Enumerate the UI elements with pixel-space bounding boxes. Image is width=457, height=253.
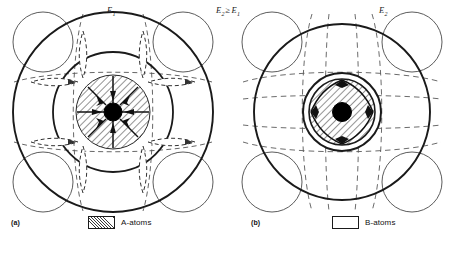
panel-caption-a: (a) — [11, 219, 20, 226]
energy-label-e1: E1 — [107, 5, 116, 17]
corner-circle-top-left — [242, 12, 302, 72]
figure-root: E1 E2≥E1 E2 (a) (b) A-atoms B-atoms — [0, 0, 457, 253]
corner-circle-top-left — [13, 12, 73, 72]
corner-circle-bottom-right — [153, 152, 213, 212]
panel-caption-b: (b) — [251, 219, 260, 226]
legend-label-a-atoms: A-atoms — [121, 218, 152, 227]
corner-circle-bottom-left — [242, 152, 302, 212]
corner-circle-top-right — [382, 12, 442, 72]
center-atom-a — [104, 103, 122, 121]
legend-label-b-atoms: B-atoms — [365, 218, 396, 227]
legend-swatch-b-atoms — [332, 216, 359, 229]
legend-a: A-atoms — [88, 216, 152, 229]
legend-b: B-atoms — [332, 216, 396, 229]
diagram-b-svg — [229, 0, 457, 215]
legend-swatch-a-atoms — [88, 216, 115, 229]
diagram-a-svg — [0, 0, 228, 215]
energy-label-e2: E2 — [379, 5, 388, 17]
energy-condition-label: E2≥E1 — [216, 5, 240, 17]
lobe-top-a — [79, 31, 147, 78]
lobe-bottom-a — [79, 146, 147, 193]
corner-circle-bottom-left — [13, 152, 73, 212]
corner-circle-bottom-right — [382, 152, 442, 212]
corner-circle-top-right — [153, 12, 213, 72]
energy-label-e1-sub: 1 — [112, 11, 115, 17]
lobe-right-a — [148, 78, 195, 146]
energy-label-e2-sub: 2 — [384, 11, 387, 17]
energy-condition-right-sub: 1 — [237, 11, 240, 17]
center-atom-b — [333, 103, 352, 122]
lobe-left-a — [31, 78, 78, 146]
